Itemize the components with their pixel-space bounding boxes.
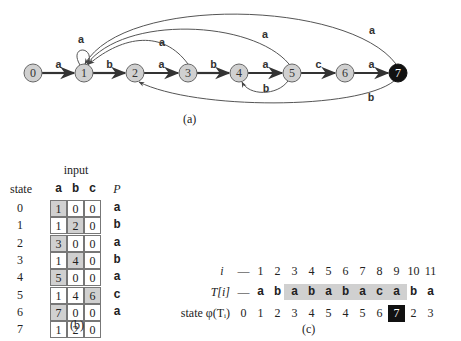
state-node-1: 1 xyxy=(75,64,93,82)
back-edge-label-1-1: a xyxy=(78,34,85,46)
symbol-header-c: c xyxy=(84,182,101,196)
pattern-char-2: a xyxy=(110,236,124,250)
back-edge-label-7-2: b xyxy=(368,92,375,104)
pattern-char-0: a xyxy=(110,201,124,215)
edge-label-6-7: a xyxy=(368,59,375,71)
svg-text:7: 7 xyxy=(395,66,401,80)
symbol-header-b: b xyxy=(67,182,84,196)
pattern-char-5: c xyxy=(110,288,124,302)
svg-text:4: 4 xyxy=(236,66,242,80)
cell-3-a: 1 xyxy=(50,252,67,269)
svg-text:6: 6 xyxy=(342,66,348,80)
state-node-6: 6 xyxy=(336,64,354,82)
edge-label-4-5: a xyxy=(262,59,269,71)
pattern-char-1: b xyxy=(110,218,124,232)
row-state-6: 6 xyxy=(12,305,28,320)
cell-2-c: 0 xyxy=(84,235,101,252)
edge-label-2-3: a xyxy=(158,59,165,71)
state-node-2: 2 xyxy=(126,64,144,82)
edge-label-1-2: b xyxy=(106,59,113,71)
row-state-1: 1 xyxy=(12,218,28,233)
label-i: i xyxy=(215,264,229,279)
cell-5-b: 4 xyxy=(67,287,84,304)
state-node-7: 7 xyxy=(389,64,407,82)
cell-0-b: 0 xyxy=(67,200,84,217)
caption-a: (a) xyxy=(183,112,196,127)
row-state-2: 2 xyxy=(12,236,28,251)
cell-4-b: 0 xyxy=(67,269,84,286)
edge-label-3-4: b xyxy=(210,59,217,71)
trace-t-11: a xyxy=(421,285,440,299)
input-label: input xyxy=(56,163,96,178)
cell-5-c: 6 xyxy=(84,287,101,304)
cell-3-c: 0 xyxy=(84,252,101,269)
back-edge-label-5-1: a xyxy=(262,29,269,41)
state-node-3: 3 xyxy=(179,64,197,82)
cell-4-c: 0 xyxy=(84,269,101,286)
cell-1-b: 2 xyxy=(67,217,84,234)
row-state-7: 7 xyxy=(12,322,28,337)
automaton-diagram: ababacaaaaabb 01234567 xyxy=(0,0,461,130)
row-state-3: 3 xyxy=(12,253,28,268)
cell-6-c: 0 xyxy=(84,304,101,321)
label-state: state φ(Tᵢ) xyxy=(140,306,230,321)
cell-4-a: 5 xyxy=(50,269,67,286)
cell-1-c: 0 xyxy=(84,217,101,234)
pattern-char-4: a xyxy=(110,270,124,284)
label-T: T[i] xyxy=(190,285,230,300)
cell-7-c: 0 xyxy=(84,321,101,338)
caption-c: (c) xyxy=(302,322,315,337)
cell-6-a: 7 xyxy=(50,304,67,321)
edge-label-5-6: c xyxy=(315,59,322,71)
cell-1-a: 1 xyxy=(50,217,67,234)
edge-label-0-1: a xyxy=(55,59,62,71)
back-edge-7-1 xyxy=(85,14,396,64)
state-node-5: 5 xyxy=(283,64,301,82)
row-state-0: 0 xyxy=(12,201,28,216)
trace-i-11: 11 xyxy=(421,264,440,279)
svg-text:1: 1 xyxy=(81,66,87,80)
cell-3-b: 4 xyxy=(67,252,84,269)
cell-0-a: 1 xyxy=(50,200,67,217)
svg-text:3: 3 xyxy=(185,66,191,80)
pattern-char-3: b xyxy=(110,253,124,267)
cell-5-a: 1 xyxy=(50,287,67,304)
cell-0-c: 0 xyxy=(84,200,101,217)
row-state-5: 5 xyxy=(12,288,28,303)
state-node-4: 4 xyxy=(230,64,248,82)
trace-state-11: 3 xyxy=(421,306,440,321)
back-edge-label-3-1: a xyxy=(159,37,166,49)
pattern-header: P xyxy=(111,182,123,197)
cell-7-a: 1 xyxy=(50,321,67,338)
svg-text:0: 0 xyxy=(30,66,36,80)
back-edge-label-7-1: a xyxy=(369,25,376,37)
cell-2-a: 3 xyxy=(50,235,67,252)
svg-text:2: 2 xyxy=(132,66,138,80)
state-node-0: 0 xyxy=(24,64,42,82)
caption-b: (b) xyxy=(70,318,84,333)
svg-text:5: 5 xyxy=(289,66,295,80)
pattern-char-6: a xyxy=(110,305,124,319)
state-header: state xyxy=(4,182,38,197)
row-state-4: 4 xyxy=(12,270,28,285)
symbol-header-a: a xyxy=(50,182,67,196)
back-edge-label-5-4: b xyxy=(263,83,270,95)
cell-2-b: 0 xyxy=(67,235,84,252)
